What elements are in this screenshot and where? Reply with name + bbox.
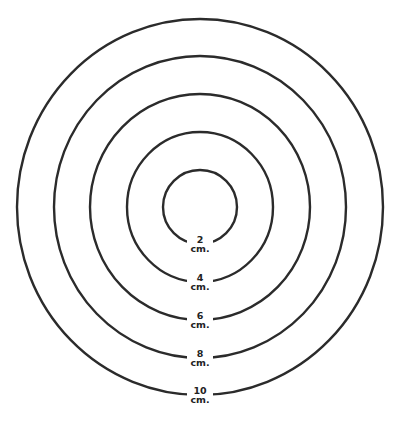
ring-unit-label: cm. [190, 281, 209, 292]
ring-unit-label: cm. [190, 243, 209, 254]
ring-unit-label: cm. [190, 319, 209, 330]
circle-outline [127, 132, 273, 282]
ring-unit-label: cm. [190, 357, 209, 368]
ring-6cm: 6cm. [90, 94, 310, 331]
circle-outline [163, 170, 237, 244]
ring-4cm: 4cm. [127, 132, 273, 293]
ring-unit-label: cm. [190, 394, 209, 405]
concentric-circles-diagram: 2cm.4cm.6cm.8cm.10cm. [0, 0, 400, 422]
circle-outline [17, 19, 383, 395]
ring-2cm: 2cm. [163, 170, 237, 255]
